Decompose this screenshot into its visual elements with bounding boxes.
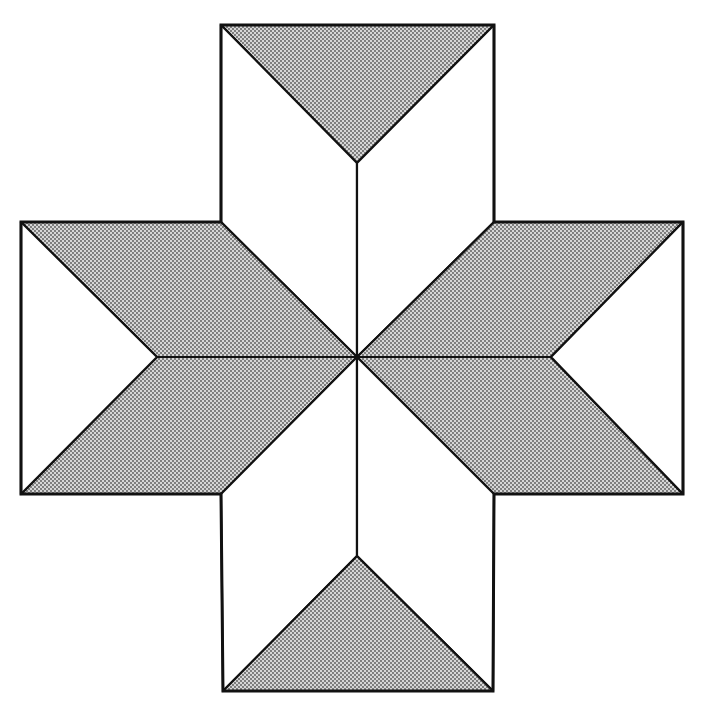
shape-group [21,25,683,691]
quilt-star-diagram [0,0,707,711]
